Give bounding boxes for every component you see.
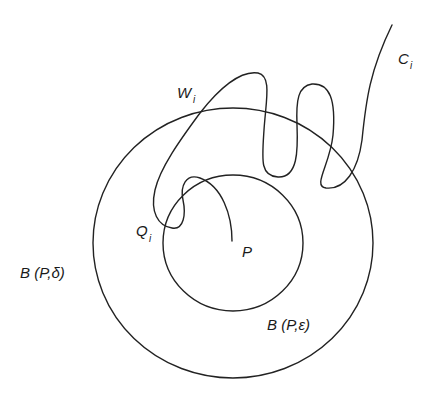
diagram-canvas: C i W i Q i P B (P,δ) B (P,ε) — [0, 0, 437, 402]
label-outer-ball: B (P,δ) — [20, 264, 65, 281]
label-ci-subscript: i — [410, 60, 413, 71]
curve-ci — [154, 25, 392, 241]
label-inner-ball: B (P,ε) — [267, 316, 310, 333]
label-ci: C — [398, 50, 409, 67]
label-qi-subscript: i — [149, 233, 152, 244]
label-qi: Q — [136, 222, 148, 239]
inner-ball-circle — [163, 175, 303, 311]
label-wi: W — [177, 84, 193, 101]
label-p: P — [242, 243, 252, 260]
label-wi-subscript: i — [193, 94, 196, 105]
